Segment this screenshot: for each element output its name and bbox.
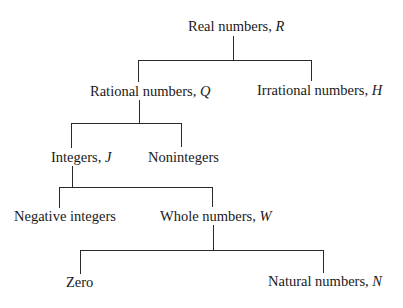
node-symbol: H <box>372 82 382 98</box>
connector-integers-branch <box>59 187 213 188</box>
node-label: Natural numbers, <box>268 273 372 289</box>
node-label: Rational numbers, <box>90 83 200 99</box>
node-label: Irrational numbers, <box>257 82 372 98</box>
connector-real-down <box>233 36 234 60</box>
node-irrational-numbers: Irrational numbers, H <box>257 82 382 98</box>
connector-rational-down <box>139 100 140 123</box>
connector-rational-branch <box>71 123 182 124</box>
connector-whole-down <box>213 225 214 250</box>
connector-to-rational <box>138 60 139 82</box>
node-nonintegers: Nonintegers <box>148 149 219 165</box>
node-symbol: J <box>105 149 111 165</box>
connector-whole-branch <box>80 250 324 251</box>
node-symbol: Q <box>200 83 210 99</box>
connector-to-irrational <box>311 60 312 81</box>
node-symbol: N <box>372 273 382 289</box>
connector-real-branch <box>138 60 312 61</box>
connector-integers-down <box>72 166 73 187</box>
node-zero: Zero <box>66 274 93 290</box>
node-label: Zero <box>66 274 93 290</box>
node-whole-numbers: Whole numbers, W <box>160 208 272 224</box>
number-classification-diagram: Real numbers, R Rational numbers, Q Irra… <box>0 0 403 308</box>
node-label: Negative integers <box>14 208 116 224</box>
node-label: Whole numbers, <box>160 208 259 224</box>
node-real-numbers: Real numbers, R <box>188 18 284 34</box>
node-rational-numbers: Rational numbers, Q <box>90 83 210 99</box>
connector-to-negative-integers <box>59 187 60 208</box>
node-label: Real numbers, <box>188 18 275 34</box>
connector-to-whole <box>212 187 213 207</box>
node-symbol: W <box>259 208 271 224</box>
node-negative-integers: Negative integers <box>14 208 116 224</box>
connector-to-natural <box>323 250 324 273</box>
connector-to-nonintegers <box>181 123 182 147</box>
node-integers: Integers, J <box>51 149 111 165</box>
node-label: Nonintegers <box>148 149 219 165</box>
node-natural-numbers: Natural numbers, N <box>268 273 382 289</box>
node-label: Integers, <box>51 149 105 165</box>
connector-to-integers <box>71 123 72 148</box>
node-symbol: R <box>275 18 284 34</box>
connector-to-zero <box>80 250 81 274</box>
